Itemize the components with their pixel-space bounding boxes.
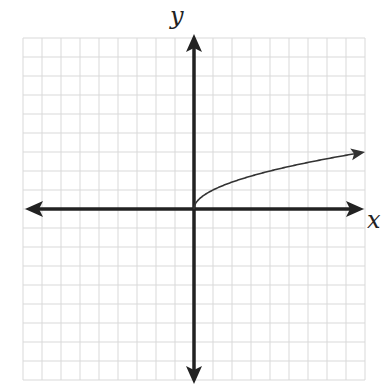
y-axis-label: y — [169, 2, 184, 30]
coordinate-plane: y x — [0, 0, 389, 387]
sqrt-curve — [194, 148, 365, 209]
curve-path — [194, 153, 356, 209]
x-axis-label: x — [367, 206, 381, 234]
